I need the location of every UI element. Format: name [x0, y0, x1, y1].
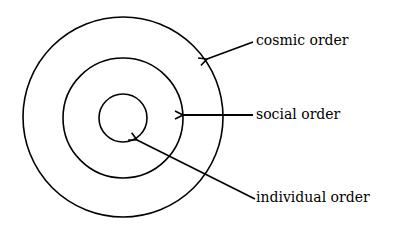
label-individual-order: individual order — [256, 190, 370, 204]
label-cosmic-order: cosmic order — [256, 33, 349, 47]
outer-circle-cosmic — [23, 17, 223, 217]
inner-circle-individual — [99, 94, 147, 142]
label-social-order: social order — [256, 107, 340, 121]
middle-circle-social — [63, 58, 183, 178]
cosmic-arrow — [207, 42, 253, 59]
